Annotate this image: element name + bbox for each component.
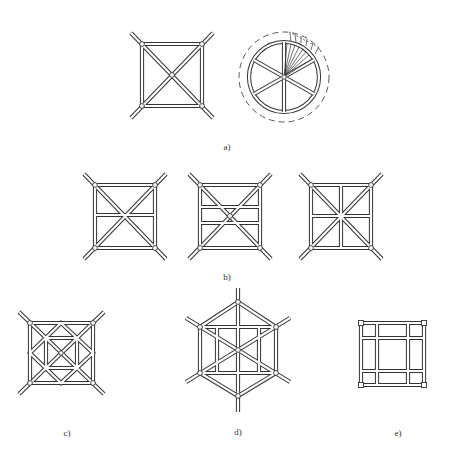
panel-label-c: c) [64,429,71,438]
diagram-b1 [84,174,166,259]
diagram-b2 [189,174,271,259]
diagram-e [359,321,427,388]
diagram-a-circle [239,32,329,122]
diagram-c [19,312,104,394]
panel-label-e: e) [395,429,402,438]
figure-canvas [0,0,449,458]
diagram-d [186,288,290,412]
diagram-b3 [300,174,382,259]
panel-label-b: b) [223,273,231,282]
panel-label-d: d) [234,428,242,437]
diagram-a-square [131,33,213,118]
panel-label-a: a) [224,143,231,152]
joint-node [140,42,145,47]
